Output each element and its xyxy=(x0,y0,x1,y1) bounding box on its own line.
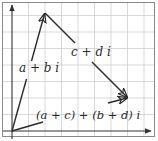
label-c-plus-di: c + d i xyxy=(71,45,111,59)
label-a-plus-bi: a + b i xyxy=(19,61,59,75)
complex-addition-diagram: a + b i c + d i (a + c) + (b + d) i xyxy=(0,0,158,141)
diagram-canvas: a + b i c + d i (a + c) + (b + d) i xyxy=(0,0,158,141)
label-sum: (a + c) + (b + d) i xyxy=(36,108,140,122)
